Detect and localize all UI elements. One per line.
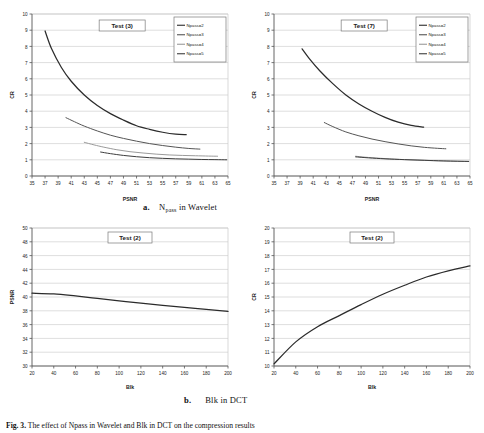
y-tick-label: 6: [25, 77, 28, 82]
chart-top-right-svg: 0123456789103537394143454749515355575961…: [248, 6, 478, 202]
x-tick-label: 37: [43, 181, 49, 186]
chart-title: Test (2): [119, 234, 141, 241]
chart-top-left-svg: 0123456789103537394143454749515355575961…: [6, 6, 236, 202]
y-tick-label: 17: [264, 268, 270, 273]
x-tick-label: 55: [402, 181, 408, 186]
x-tick-label: 43: [82, 181, 88, 186]
x-tick-label: 80: [337, 371, 343, 376]
y-tick-label: 44: [22, 268, 28, 273]
x-tick-label: 65: [467, 181, 473, 186]
x-tick-label: 35: [29, 181, 35, 186]
y-tick-label: 40: [22, 295, 28, 300]
x-tick-label: 59: [186, 181, 192, 186]
legend-label-2: Npass=3: [187, 32, 205, 37]
y-tick-label: 4: [25, 109, 28, 114]
x-axis-label: Blk: [368, 384, 376, 390]
x-tick-label: 160: [423, 371, 431, 376]
x-tick-label: 60: [315, 371, 321, 376]
x-tick-label: 39: [56, 181, 62, 186]
y-tick-label: 2: [267, 142, 270, 147]
y-tick-label: 36: [22, 323, 28, 328]
x-tick-label: 80: [95, 371, 101, 376]
y-tick-label: 3: [25, 126, 28, 131]
x-tick-label: 100: [357, 371, 365, 376]
x-tick-label: 140: [401, 371, 409, 376]
y-tick-label: 10: [264, 364, 270, 369]
x-tick-label: 35: [271, 181, 277, 186]
y-tick-label: 38: [22, 309, 28, 314]
y-tick-label: 46: [22, 254, 28, 259]
x-tick-label: 43: [324, 181, 330, 186]
y-tick-label: 1: [267, 158, 270, 163]
sub-caption-b-label: b.: [184, 395, 191, 405]
x-tick-label: 180: [444, 371, 452, 376]
figure-caption-label: Fig. 3.: [6, 421, 26, 430]
y-tick-label: 42: [22, 281, 28, 286]
legend-label-3: Npass=4: [187, 42, 205, 47]
legend-label-1: Npass=2: [429, 23, 447, 28]
x-tick-label: 100: [115, 371, 123, 376]
y-tick-label: 13: [264, 323, 270, 328]
sub-caption-a-label: a.: [143, 202, 150, 212]
x-tick-label: 200: [466, 371, 474, 376]
chart-top-left: 0123456789103537394143454749515355575961…: [6, 6, 236, 202]
y-tick-label: 15: [264, 295, 270, 300]
sub-caption-b: b. Blk in DCT: [184, 395, 247, 405]
y-tick-label: 8: [25, 45, 28, 50]
figure-container: 0123456789103537394143454749515355575961…: [0, 0, 484, 433]
x-tick-label: 45: [337, 181, 343, 186]
y-tick-label: 18: [264, 254, 270, 259]
chart-bottom-right: 1011121314151617181920204060801001201401…: [248, 222, 478, 390]
x-tick-label: 60: [73, 371, 79, 376]
chart-bottom-right-svg: 1011121314151617181920204060801001201401…: [248, 222, 478, 390]
x-tick-label: 37: [285, 181, 291, 186]
x-tick-label: 140: [159, 371, 167, 376]
y-tick-label: 10: [264, 12, 270, 17]
y-tick-label: 5: [25, 93, 28, 98]
x-tick-label: 61: [441, 181, 447, 186]
x-tick-label: 57: [415, 181, 421, 186]
y-axis-label: CR: [251, 293, 257, 301]
x-tick-label: 57: [173, 181, 179, 186]
x-tick-label: 20: [29, 371, 35, 376]
y-tick-label: 9: [25, 28, 28, 33]
x-tick-label: 49: [363, 181, 369, 186]
x-tick-label: 49: [121, 181, 127, 186]
x-tick-label: 200: [224, 371, 232, 376]
y-axis-label: PSNR: [9, 290, 15, 305]
x-axis-label: PSNR: [123, 196, 138, 202]
y-tick-label: 32: [22, 350, 28, 355]
sub-caption-a-sub: pass: [165, 207, 176, 213]
chart-top-right: 0123456789103537394143454749515355575961…: [248, 6, 478, 202]
y-axis-label: CR: [251, 91, 257, 99]
x-tick-label: 45: [95, 181, 101, 186]
x-tick-label: 120: [137, 371, 145, 376]
x-tick-label: 20: [271, 371, 277, 376]
y-tick-label: 3: [267, 126, 270, 131]
legend-label-3: Npass=4: [429, 42, 447, 47]
x-tick-label: 51: [134, 181, 140, 186]
x-tick-label: 55: [160, 181, 166, 186]
y-tick-label: 20: [264, 226, 270, 231]
chart-title: Test (3): [111, 22, 133, 29]
y-tick-label: 14: [264, 309, 270, 314]
x-tick-label: 61: [199, 181, 205, 186]
chart-title: Test (2): [361, 234, 383, 241]
y-tick-label: 48: [22, 240, 28, 245]
y-axis-label: CR: [9, 91, 15, 99]
y-tick-label: 12: [264, 337, 270, 342]
y-tick-label: 7: [25, 61, 28, 66]
x-tick-label: 53: [147, 181, 153, 186]
x-tick-label: 63: [454, 181, 460, 186]
sub-caption-b-text: Blk in DCT: [205, 395, 247, 405]
chart-bottom-left-svg: 3032343638404244464850204060801001201401…: [6, 222, 236, 390]
y-tick-label: 0: [267, 174, 270, 179]
sub-caption-a: a. Npass in Wavelet: [143, 202, 217, 213]
figure-caption-text: The effect of Npass in Wavelet and Blk i…: [28, 421, 255, 430]
chart-bottom-left: 3032343638404244464850204060801001201401…: [6, 222, 236, 390]
y-tick-label: 10: [22, 12, 28, 17]
y-tick-label: 6: [267, 77, 270, 82]
chart-title: Test (7): [353, 22, 375, 29]
x-tick-label: 63: [212, 181, 218, 186]
y-tick-label: 9: [267, 28, 270, 33]
